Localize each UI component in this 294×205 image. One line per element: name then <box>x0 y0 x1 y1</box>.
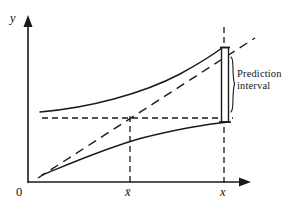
annotation-brace-icon <box>231 57 235 112</box>
lower-prediction-band <box>42 122 229 175</box>
prediction-interval-bar <box>222 48 229 123</box>
prediction-interval-annotation-line-2: interval <box>237 80 270 93</box>
upper-prediction-band <box>40 48 223 113</box>
origin-label: 0 <box>16 185 22 199</box>
y-axis-label: y <box>8 11 16 25</box>
x-axis-arrowhead-icon <box>239 178 251 187</box>
prediction-interval-annotation-line-1: Prediction <box>237 68 282 81</box>
figure-canvas: y 0 x̄ x <box>0 0 294 205</box>
x-mean-label: x̄ <box>124 185 131 199</box>
y-axis-arrowhead-icon <box>24 15 33 27</box>
x-axis-label: x <box>219 185 226 199</box>
prediction-interval-figure: y 0 x̄ x Prediction interval <box>0 0 294 205</box>
